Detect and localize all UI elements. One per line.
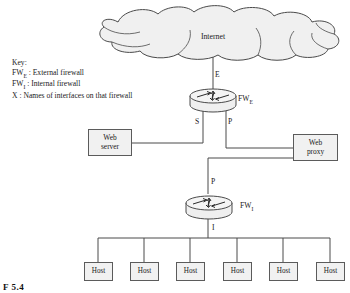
interface-label-p-external: P bbox=[228, 118, 232, 126]
key-desc-interfaces: Names of interfaces on that firewall bbox=[23, 91, 132, 100]
external-firewall-subscript: E bbox=[249, 99, 252, 105]
key-term-fw-external: FW bbox=[12, 68, 23, 77]
network-diagram: Internet Key: FWE : External firewall FW… bbox=[0, 0, 350, 293]
internal-firewall-subscript: I bbox=[251, 206, 253, 212]
host-label-6: Host bbox=[324, 267, 338, 275]
key-desc-external-firewall: External firewall bbox=[33, 68, 84, 77]
internal-firewall-router-icon bbox=[186, 196, 232, 219]
link-web-proxy-to-internal-firewall bbox=[208, 158, 293, 194]
host-label-5: Host bbox=[277, 267, 291, 275]
figure-caption: F 5.4 bbox=[3, 283, 24, 293]
web-server-node: Web server bbox=[88, 129, 132, 156]
link-external-firewall-to-web-proxy bbox=[226, 110, 293, 148]
internal-firewall-label: FWI bbox=[240, 202, 253, 212]
interface-label-p-internal: P bbox=[211, 178, 215, 186]
internet-label-text: Internet bbox=[201, 32, 225, 41]
internet-label: Internet bbox=[0, 33, 350, 41]
key-legend: Key: FWE : External firewall FWI : Inter… bbox=[12, 58, 132, 101]
link-external-firewall-to-web-server bbox=[132, 110, 203, 143]
host-node-2: Host bbox=[130, 262, 159, 281]
host-node-1: Host bbox=[84, 262, 113, 281]
host-node-4: Host bbox=[223, 262, 252, 281]
host-label-2: Host bbox=[138, 267, 152, 275]
key-term-fw-internal: FW bbox=[12, 79, 23, 88]
host-node-5: Host bbox=[269, 262, 298, 281]
host-label-4: Host bbox=[231, 267, 245, 275]
host-label-1: Host bbox=[92, 267, 106, 275]
interface-label-s: S bbox=[195, 118, 199, 126]
key-entry-interfaces: X : Names of interfaces on that firewall bbox=[12, 91, 132, 101]
key-title: Key: bbox=[12, 58, 132, 68]
host-node-3: Host bbox=[176, 262, 205, 281]
host-node-6: Host bbox=[316, 262, 345, 281]
web-proxy-node: Web proxy bbox=[293, 134, 338, 161]
interface-label-e: E bbox=[215, 71, 220, 79]
external-firewall-router-icon bbox=[190, 89, 236, 112]
web-proxy-line2: proxy bbox=[307, 148, 324, 157]
internal-firewall-name: FW bbox=[240, 201, 251, 210]
web-server-line2: server bbox=[101, 143, 119, 152]
interface-label-i: I bbox=[212, 224, 215, 232]
external-firewall-label: FWE bbox=[238, 95, 253, 105]
key-entry-internal-firewall: FWI : Internal firewall bbox=[12, 79, 132, 91]
host-label-3: Host bbox=[184, 267, 198, 275]
key-entry-external-firewall: FWE : External firewall bbox=[12, 68, 132, 80]
key-desc-internal-firewall: Internal firewall bbox=[31, 79, 80, 88]
external-firewall-name: FW bbox=[238, 94, 249, 103]
